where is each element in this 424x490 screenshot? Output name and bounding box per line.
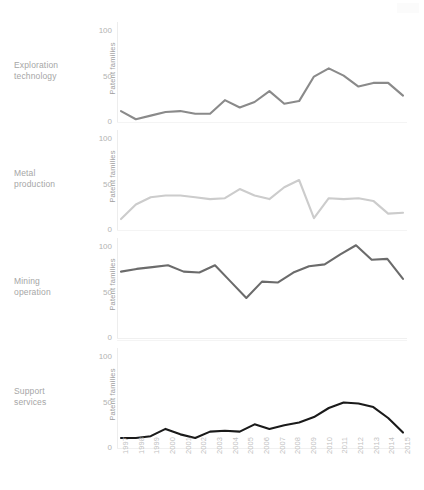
data-line bbox=[121, 245, 403, 298]
x-tick-2001: 2001 bbox=[184, 437, 193, 467]
panel-title-line2: production bbox=[14, 179, 86, 190]
panel-title-line1: Mining bbox=[14, 276, 86, 287]
small-multiples-line-chart: ExplorationtechnologyPatent families1005… bbox=[0, 0, 424, 490]
y-tick-0: 0 bbox=[84, 443, 112, 452]
x-axis-year-labels: 1997199819992000200120022003200420052006… bbox=[117, 452, 407, 490]
y-tick-100: 100 bbox=[84, 26, 112, 35]
data-line bbox=[121, 403, 403, 438]
panel-title-line2: services bbox=[14, 397, 86, 408]
x-tick-2000: 2000 bbox=[168, 437, 177, 467]
x-tick-2003: 2003 bbox=[215, 437, 224, 467]
y-tick-50: 50 bbox=[84, 180, 112, 189]
x-tick-2010: 2010 bbox=[325, 437, 334, 467]
y-tick-50: 50 bbox=[84, 72, 112, 81]
panel-title: Miningoperation bbox=[14, 276, 86, 298]
panel-mining-operation: MiningoperationPatent families100500 bbox=[0, 238, 424, 346]
data-line bbox=[121, 180, 403, 219]
panel-exploration-technology: ExplorationtechnologyPatent families1005… bbox=[0, 22, 424, 130]
data-line bbox=[121, 68, 403, 119]
x-tick-2008: 2008 bbox=[293, 437, 302, 467]
y-tick-0: 0 bbox=[84, 225, 112, 234]
panel-title: Supportservices bbox=[14, 386, 86, 408]
x-tick-2002: 2002 bbox=[199, 437, 208, 467]
x-tick-2006: 2006 bbox=[262, 437, 271, 467]
y-axis-title: Patent families bbox=[108, 355, 117, 435]
y-tick-0: 0 bbox=[84, 333, 112, 342]
x-tick-2014: 2014 bbox=[387, 437, 396, 467]
y-axis-title: Patent families bbox=[108, 29, 117, 109]
plot-area bbox=[117, 22, 407, 122]
x-axis-baseline bbox=[117, 338, 407, 339]
x-tick-2012: 2012 bbox=[356, 437, 365, 467]
x-tick-1999: 1999 bbox=[152, 437, 161, 467]
panel-title-line1: Exploration bbox=[14, 60, 86, 71]
panel-separator bbox=[117, 122, 407, 123]
y-tick-50: 50 bbox=[84, 288, 112, 297]
x-tick-1997: 1997 bbox=[121, 437, 130, 467]
y-tick-100: 100 bbox=[84, 352, 112, 361]
y-axis-title: Patent families bbox=[108, 137, 117, 217]
y-tick-100: 100 bbox=[84, 134, 112, 143]
panel-metal-production: MetalproductionPatent families100500 bbox=[0, 130, 424, 238]
corner-artifact bbox=[397, 3, 419, 13]
panel-separator bbox=[117, 340, 407, 341]
x-tick-1998: 1998 bbox=[137, 437, 146, 467]
panel-title: Metalproduction bbox=[14, 168, 86, 190]
y-axis-title: Patent families bbox=[108, 245, 117, 325]
panel-title-line2: operation bbox=[14, 287, 86, 298]
plot-area bbox=[117, 348, 407, 448]
plot-area bbox=[117, 238, 407, 338]
y-tick-100: 100 bbox=[84, 242, 112, 251]
x-tick-2004: 2004 bbox=[231, 437, 240, 467]
panel-title-line2: technology bbox=[14, 71, 86, 82]
x-tick-2011: 2011 bbox=[340, 437, 349, 467]
x-tick-2005: 2005 bbox=[246, 437, 255, 467]
y-tick-50: 50 bbox=[84, 398, 112, 407]
x-tick-2009: 2009 bbox=[309, 437, 318, 467]
x-tick-2013: 2013 bbox=[372, 437, 381, 467]
x-tick-2007: 2007 bbox=[278, 437, 287, 467]
plot-area bbox=[117, 130, 407, 230]
panel-separator bbox=[117, 230, 407, 231]
panel-title-line1: Support bbox=[14, 386, 86, 397]
panel-title-line1: Metal bbox=[14, 168, 86, 179]
x-tick-2015: 2015 bbox=[403, 437, 412, 467]
panel-title: Explorationtechnology bbox=[14, 60, 86, 82]
y-tick-0: 0 bbox=[84, 117, 112, 126]
